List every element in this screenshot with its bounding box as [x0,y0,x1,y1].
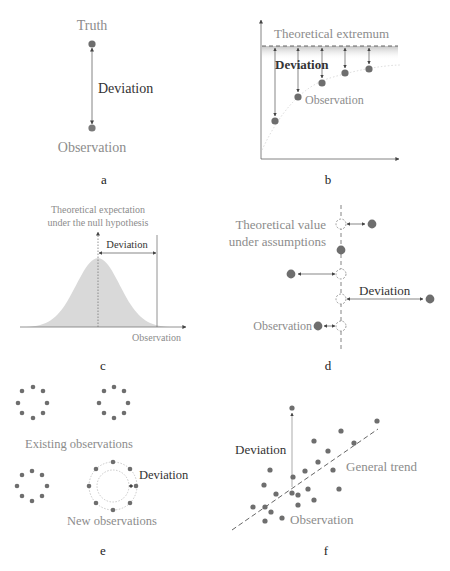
extremum-label: Theoretical extremum [274,26,389,41]
panel-letter-e: e [100,543,106,558]
panel-f: Deviation General trend Observation f [232,405,418,558]
observation-label: Observation [132,332,181,343]
deviation-label: Deviation [98,81,153,96]
general-trend-label: General trend [346,459,418,474]
deviation-label: Deviation [359,283,411,298]
existing-cluster-top-right [97,385,131,421]
deviation-label: Deviation [275,57,329,72]
panel-d: Theoretical value under assumptions Devi… [229,205,435,373]
panel-a: Truth Deviation Observation a [58,18,153,187]
observation-label: Observation [290,512,354,527]
panel-letter-d: d [325,358,332,373]
expectation-label-line1: Theoretical expectation [51,204,145,215]
deviation-label: Deviation [106,239,148,250]
existing-observations-label: Existing observations [25,437,133,451]
truth-label: Truth [77,18,108,33]
new-observations-label: New observations [67,514,157,528]
panel-e: Existing observations Deviation New obse… [15,385,189,558]
existing-cluster-bottom-left [15,469,50,504]
panel-c: Theoretical expectation under the null h… [20,204,186,373]
truth-dot [88,40,95,47]
panel-letter-a: a [101,172,107,187]
observation-label: Observation [58,140,126,155]
deviation-label: Deviation [139,468,189,482]
existing-cluster-top-left [16,385,50,421]
theoretical-label-line2: under assumptions [229,234,326,249]
trend-curve [262,65,400,150]
theoretical-label-line1: Theoretical value [235,217,326,232]
panel-letter-c: c [100,358,106,373]
observation-dot [88,124,95,131]
observation-label: Observation [253,319,312,333]
panel-b: Theoretical extremum Deviation Observati… [261,20,400,187]
inner-ring [97,470,129,502]
panel-letter-b: b [325,172,332,187]
observation-label: Observation [305,93,364,107]
figure-canvas: Truth Deviation Observation a Theoretica… [0,0,450,571]
deviation-label: Deviation [235,442,287,457]
panel-letter-f: f [324,543,329,558]
expectation-label-line2: under the null hypothesis [48,217,149,228]
